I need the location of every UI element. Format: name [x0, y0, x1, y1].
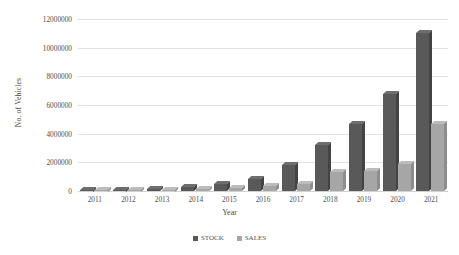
x-axis-tick-label: 2020: [381, 195, 415, 204]
chart-legend: STOCKSALES: [0, 234, 459, 242]
bar-group: [280, 19, 314, 191]
bar-face: [263, 186, 276, 191]
x-axis-tick-label: 2011: [78, 195, 112, 204]
bar-pair: [248, 19, 278, 191]
bar-stock-2014[interactable]: [181, 187, 194, 191]
bar-pair: [80, 19, 110, 191]
y-axis-title: No. of Vehicles: [14, 57, 23, 147]
bar-stock-2019[interactable]: [349, 124, 362, 191]
x-axis-tick-label: 2021: [414, 195, 448, 204]
legend-swatch-icon: [193, 236, 198, 241]
legend-swatch-icon: [237, 236, 242, 241]
bar-group: [414, 19, 448, 191]
bar-face: [416, 33, 429, 191]
y-axis-tick-label: 4000000: [46, 129, 72, 138]
x-axis-tick-label: 2019: [347, 195, 381, 204]
x-axis-tick-label: 2013: [145, 195, 179, 204]
bar-stock-2015[interactable]: [214, 184, 227, 191]
x-axis-tick-label: 2016: [246, 195, 280, 204]
bar-stock-2018[interactable]: [315, 145, 328, 191]
legend-label: STOCK: [201, 234, 224, 242]
bar-side: [444, 121, 447, 191]
axis-baseline: 0: [78, 191, 448, 192]
bar-stock-2011[interactable]: [80, 190, 93, 192]
bar-group: [246, 19, 280, 191]
bar-pair: [181, 19, 211, 191]
bar-face: [147, 189, 160, 191]
bar-face: [383, 94, 396, 191]
bar-group: [179, 19, 213, 191]
bar-group: [381, 19, 415, 191]
bar-face: [349, 124, 362, 191]
plot-area: 0200000040000006000000800000010000000120…: [78, 19, 448, 191]
bar-group: [213, 19, 247, 191]
bar-sales-2020[interactable]: [398, 164, 411, 191]
bar-pair: [315, 19, 345, 191]
bar-pair: [383, 19, 413, 191]
legend-item-stock[interactable]: STOCK: [193, 234, 224, 242]
bar-group: [313, 19, 347, 191]
bar-stock-2012[interactable]: [113, 190, 126, 192]
bar-group: [347, 19, 381, 191]
bar-sales-2014[interactable]: [196, 189, 209, 191]
bar-face: [282, 165, 295, 191]
x-axis-tick-label: 2017: [280, 195, 314, 204]
bar-pair: [416, 19, 446, 191]
bar-sales-2018[interactable]: [330, 172, 343, 191]
bar-stock-2020[interactable]: [383, 94, 396, 191]
bar-face: [196, 189, 209, 191]
bar-pair: [113, 19, 143, 191]
bar-stock-2017[interactable]: [282, 165, 295, 191]
bar-sales-2021[interactable]: [431, 124, 444, 191]
bar-face: [431, 124, 444, 191]
bar-stock-2016[interactable]: [248, 179, 261, 191]
x-axis-tick-label: 2012: [112, 195, 146, 204]
bar-face: [181, 187, 194, 191]
bar-stock-2021[interactable]: [416, 33, 429, 191]
bar-sales-2016[interactable]: [263, 186, 276, 191]
bar-side: [141, 187, 144, 191]
bar-sales-2013[interactable]: [162, 190, 175, 192]
bar-face: [229, 188, 242, 191]
bar-pair: [214, 19, 244, 191]
bar-stock-2013[interactable]: [147, 189, 160, 191]
x-axis-title: Year: [0, 208, 459, 217]
bar-groups: [78, 19, 448, 191]
bar-sales-2012[interactable]: [128, 190, 141, 192]
bar-side: [242, 185, 245, 191]
x-axis-tick-labels: 2011201220132014201520162017201820192020…: [78, 195, 448, 204]
bar-side: [310, 181, 313, 191]
x-axis-tick-label: 2018: [313, 195, 347, 204]
bar-side: [209, 186, 212, 191]
legend-item-sales[interactable]: SALES: [237, 234, 266, 242]
bar-face: [214, 184, 227, 191]
bar-side: [411, 161, 414, 191]
bar-group: [145, 19, 179, 191]
bar-side: [276, 183, 279, 191]
bar-face: [330, 172, 343, 191]
y-axis-tick-label: 0: [68, 187, 72, 196]
y-axis-tick-label: 8000000: [46, 72, 72, 81]
bar-group: [78, 19, 112, 191]
y-axis-tick-label: 6000000: [46, 101, 72, 110]
x-axis-tick-label: 2015: [213, 195, 247, 204]
bar-pair: [282, 19, 312, 191]
y-axis-tick-label: 12000000: [43, 15, 72, 24]
legend-label: SALES: [245, 234, 266, 242]
bar-face: [315, 145, 328, 191]
bar-sales-2019[interactable]: [364, 171, 377, 191]
bar-sales-2017[interactable]: [297, 184, 310, 191]
bar-pair: [349, 19, 379, 191]
bar-chart: No. of Vehicles 020000004000000600000080…: [0, 0, 459, 255]
bar-side: [343, 170, 346, 191]
bar-side: [377, 168, 380, 191]
bar-pair: [147, 19, 177, 191]
y-axis-tick-label: 10000000: [43, 43, 72, 52]
bar-sales-2011[interactable]: [95, 190, 108, 192]
bar-face: [248, 179, 261, 191]
y-axis-tick-label: 2000000: [46, 158, 72, 167]
bar-face: [364, 171, 377, 191]
bar-sales-2015[interactable]: [229, 188, 242, 191]
bar-group: [112, 19, 146, 191]
bar-face: [398, 164, 411, 191]
